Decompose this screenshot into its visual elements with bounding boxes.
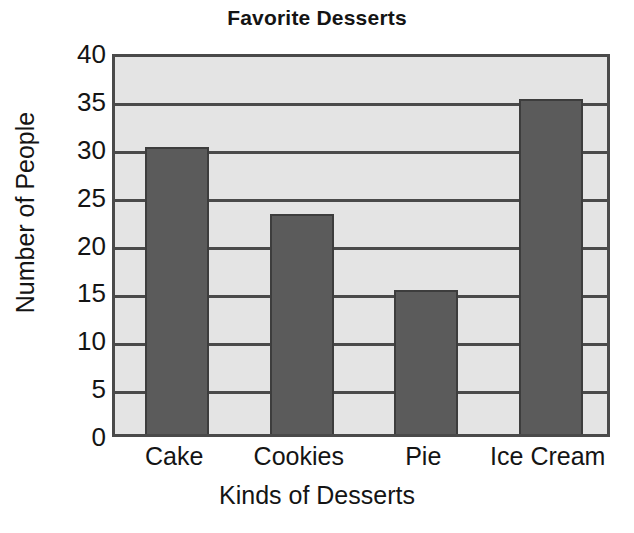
y-axis-tick-label: 5 bbox=[46, 376, 106, 402]
bar-chart: Favorite Desserts Number of People 40353… bbox=[0, 0, 634, 533]
bar[interactable] bbox=[270, 214, 334, 434]
y-axis-tick-label: 40 bbox=[46, 41, 106, 67]
y-axis-tick-label: 10 bbox=[46, 328, 106, 354]
x-axis-tick-label: Cake bbox=[145, 442, 203, 471]
x-axis-tick-label: Cookies bbox=[254, 442, 344, 471]
bar[interactable] bbox=[519, 99, 583, 434]
x-axis-title: Kinds of Desserts bbox=[0, 481, 634, 510]
chart-title: Favorite Desserts bbox=[0, 6, 634, 30]
x-axis-tick-labels: CakeCookiesPieIce Cream bbox=[112, 442, 610, 476]
y-axis-tick-label: 30 bbox=[46, 137, 106, 163]
bar[interactable] bbox=[145, 147, 209, 434]
y-axis-tick-labels: 4035302520151050 bbox=[36, 54, 106, 437]
plot-area bbox=[112, 54, 610, 437]
y-axis-tick-label: 0 bbox=[46, 424, 106, 450]
bar[interactable] bbox=[394, 290, 458, 434]
y-axis-tick-label: 25 bbox=[46, 185, 106, 211]
y-axis-tick-label: 35 bbox=[46, 89, 106, 115]
y-axis-tick-label: 20 bbox=[46, 233, 106, 259]
x-axis-tick-label: Pie bbox=[405, 442, 441, 471]
y-axis-tick-label: 15 bbox=[46, 280, 106, 306]
x-axis-tick-label: Ice Cream bbox=[490, 442, 605, 471]
